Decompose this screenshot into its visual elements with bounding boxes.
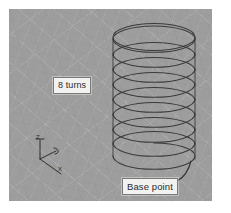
annotation-turns-label[interactable]: 8 turns <box>53 77 91 94</box>
helix-geometry <box>113 24 195 170</box>
annotation-base-point-label[interactable]: Base point <box>122 178 178 195</box>
helix-turn-1-back <box>113 26 195 39</box>
ucs-label-z: Z <box>36 134 40 140</box>
helix-turn-5 <box>113 99 195 112</box>
ucs-axis-y <box>40 151 56 159</box>
cad-model-space-viewport[interactable]: Z X 8 turns Base point <box>9 9 212 201</box>
screenshot-root: Z X 8 turns Base point <box>0 0 231 213</box>
helix-turn-6 <box>113 114 195 127</box>
ucs-label-x: X <box>58 166 62 172</box>
helix-turn-2 <box>113 54 195 67</box>
helix-turn-8 <box>113 143 195 156</box>
base-point-leader-line <box>177 161 191 181</box>
helix-turn-4 <box>113 84 195 97</box>
helix-turn-3 <box>113 69 195 82</box>
helix-drawing: Z X <box>9 9 212 201</box>
